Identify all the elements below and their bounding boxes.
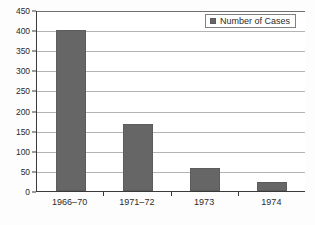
x-axis-tick-mark xyxy=(171,192,172,196)
y-axis-tick-label: 450 xyxy=(16,6,30,16)
x-axis-tick-mark xyxy=(103,192,104,196)
bar xyxy=(123,124,153,191)
chart-legend: Number of Cases xyxy=(205,14,296,28)
legend-swatch-icon xyxy=(210,18,216,24)
bar-chart-figure: 050100150200250300350400450 1966–701971–… xyxy=(0,0,315,225)
y-axis-tick-label: 300 xyxy=(16,66,30,76)
plot-area xyxy=(36,11,305,192)
bar xyxy=(190,168,220,191)
x-axis-category-label: 1973 xyxy=(194,197,214,207)
x-axis-labels: 1966–701971–7219731974 xyxy=(36,197,305,211)
y-axis-tick-label: 350 xyxy=(16,46,30,56)
x-axis-category-label: 1974 xyxy=(261,197,281,207)
y-axis-tick-label: 400 xyxy=(16,26,30,36)
y-axis-tick-label: 200 xyxy=(16,107,30,117)
y-axis-tick-label: 250 xyxy=(16,86,30,96)
bar xyxy=(56,30,86,191)
y-axis-tick-label: 150 xyxy=(16,127,30,137)
y-axis-tick-label: 100 xyxy=(16,147,30,157)
y-axis-tick-label: 50 xyxy=(21,167,30,177)
caption-remnant: . . . . . . . . . . . . . . . . . . . . … xyxy=(40,213,290,223)
legend-entry-label: Number of Cases xyxy=(220,16,290,26)
x-axis-category-label: 1966–70 xyxy=(52,197,87,207)
bar-series-number-of-cases xyxy=(37,11,305,191)
y-axis: 050100150200250300350400450 xyxy=(0,11,36,192)
bar xyxy=(257,182,287,191)
y-axis-tick-label: 0 xyxy=(25,187,30,197)
x-axis-category-label: 1971–72 xyxy=(119,197,154,207)
x-axis-tick-mark xyxy=(238,192,239,196)
